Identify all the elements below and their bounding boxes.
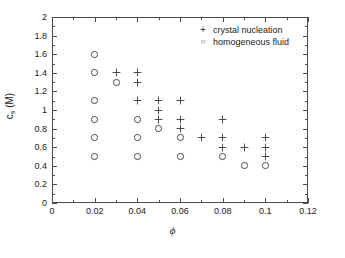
tick-mark: [244, 200, 245, 203]
x-tick-label: 0.06: [160, 206, 200, 216]
tick-mark: [52, 73, 57, 74]
tick-mark: [52, 147, 57, 148]
data-point-circle: [90, 115, 99, 124]
x-tick-label: 0.08: [203, 206, 243, 216]
tick-mark: [52, 110, 57, 111]
data-point-plus: [176, 96, 185, 105]
data-point-circle: [90, 68, 99, 77]
tick-mark: [305, 157, 308, 158]
data-point-circle: [133, 152, 142, 161]
tick-mark: [95, 17, 96, 22]
y-tick-label: 1.6: [19, 49, 47, 59]
y-axis-title: cs (M): [4, 66, 16, 146]
data-point-circle: [176, 152, 185, 161]
tick-mark: [52, 17, 57, 18]
tick-mark: [265, 198, 266, 203]
tick-mark: [159, 200, 160, 203]
legend: +crystal nucleation○homogeneous fluid: [196, 24, 289, 48]
tick-mark: [305, 64, 308, 65]
tick-mark: [52, 194, 55, 195]
tick-mark: [303, 166, 308, 167]
tick-mark: [303, 129, 308, 130]
data-point-circle: [90, 96, 99, 105]
tick-mark: [137, 17, 138, 22]
tick-mark: [52, 45, 55, 46]
data-point-plus: [154, 115, 163, 124]
tick-mark: [52, 129, 57, 130]
tick-mark: [305, 45, 308, 46]
data-point-plus: [261, 152, 270, 161]
x-tick-label: 0.12: [288, 206, 328, 216]
legend-label: homogeneous fluid: [210, 36, 289, 48]
data-point-plus: [218, 143, 227, 152]
tick-mark: [308, 17, 309, 22]
tick-mark: [52, 36, 57, 37]
data-point-plus: [133, 78, 142, 87]
tick-mark: [52, 138, 55, 139]
data-point-circle: [112, 78, 121, 87]
tick-mark: [159, 17, 160, 20]
tick-mark: [201, 17, 202, 20]
tick-mark: [223, 198, 224, 203]
data-point-circle: [240, 161, 249, 170]
tick-mark: [95, 198, 96, 203]
tick-mark: [137, 198, 138, 203]
tick-mark: [52, 184, 57, 185]
tick-mark: [303, 184, 308, 185]
x-tick-label: 0.1: [245, 206, 285, 216]
tick-mark: [305, 119, 308, 120]
legend-item: +crystal nucleation: [196, 24, 289, 36]
data-point-circle: [90, 133, 99, 142]
tick-mark: [116, 17, 117, 20]
data-point-plus: [261, 133, 270, 142]
tick-mark: [287, 200, 288, 203]
data-point-plus: [154, 96, 163, 105]
y-tick-label: 1: [19, 105, 47, 115]
tick-mark: [52, 175, 55, 176]
y-tick-label: 2: [19, 12, 47, 22]
y-tick-label: 1.4: [19, 68, 47, 78]
tick-mark: [303, 17, 308, 18]
tick-mark: [308, 198, 309, 203]
tick-mark: [73, 200, 74, 203]
data-point-plus: [133, 96, 142, 105]
data-point-circle: [90, 152, 99, 161]
tick-mark: [52, 26, 55, 27]
tick-mark: [305, 138, 308, 139]
tick-mark: [180, 198, 181, 203]
x-tick-label: 0.02: [75, 206, 115, 216]
data-point-plus: [176, 124, 185, 133]
y-tick-label: 0.4: [19, 161, 47, 171]
tick-mark: [52, 82, 55, 83]
tick-mark: [303, 73, 308, 74]
tick-mark: [244, 17, 245, 20]
x-axis-title: ϕ: [0, 224, 345, 236]
y-tick-label: 1.8: [19, 31, 47, 41]
tick-mark: [303, 91, 308, 92]
tick-mark: [305, 194, 308, 195]
y-tick-label: 0.8: [19, 124, 47, 134]
data-point-plus: [133, 68, 142, 77]
tick-mark: [305, 82, 308, 83]
data-point-plus: [112, 68, 121, 77]
tick-mark: [305, 175, 308, 176]
tick-mark: [303, 203, 308, 204]
data-point-plus: [176, 115, 185, 124]
tick-mark: [305, 26, 308, 27]
tick-mark: [303, 54, 308, 55]
y-tick-label: 0: [19, 198, 47, 208]
tick-mark: [52, 119, 55, 120]
scatter-plot-figure: 00.020.040.060.080.10.12 00.20.40.60.811…: [0, 0, 345, 258]
tick-mark: [116, 200, 117, 203]
tick-mark: [52, 166, 57, 167]
tick-mark: [52, 157, 55, 158]
legend-label: crystal nucleation: [210, 24, 283, 36]
tick-mark: [180, 17, 181, 22]
tick-mark: [52, 101, 55, 102]
tick-mark: [303, 36, 308, 37]
tick-mark: [201, 200, 202, 203]
data-point-plus: [218, 133, 227, 142]
tick-mark: [52, 91, 57, 92]
y-tick-label: 1.2: [19, 86, 47, 96]
data-point-circle: [218, 152, 227, 161]
